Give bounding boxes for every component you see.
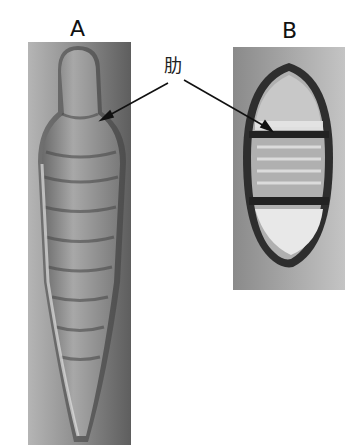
arrow-to-panel-a-icon [106, 83, 168, 117]
arrow-to-panel-b-icon [184, 80, 266, 127]
rib-arrows [0, 0, 357, 445]
